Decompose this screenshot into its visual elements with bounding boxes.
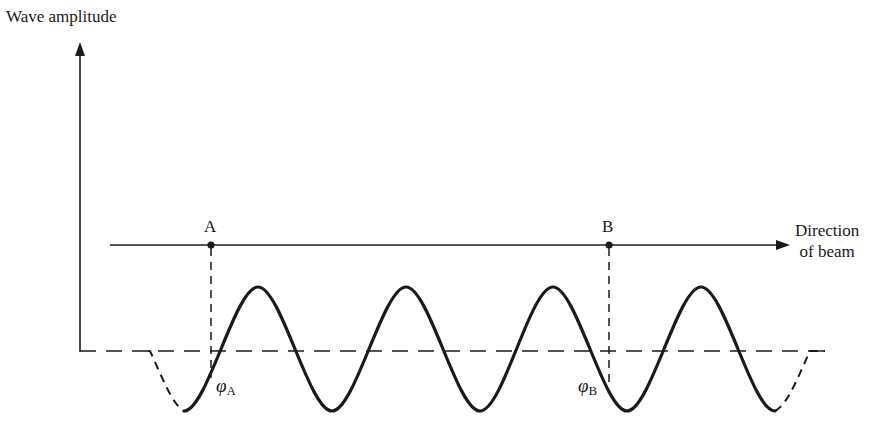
phi-subscript-b: B [589, 383, 598, 398]
phi-symbol-b: φ [578, 375, 589, 396]
point-b-label: B [602, 218, 613, 235]
phase-label-b: φB [578, 376, 597, 397]
phi-symbol-a: φ [216, 375, 227, 396]
wave-dashed-left [148, 351, 184, 411]
y-axis-label: Wave amplitude [6, 8, 117, 25]
point-b-marker [605, 241, 612, 385]
point-a-label: A [204, 218, 216, 235]
wave-diagram-canvas [0, 0, 883, 443]
y-axis [75, 42, 85, 352]
phi-subscript-a: A [227, 383, 236, 398]
wave-dashed-right [775, 351, 825, 411]
beam-direction-label-line2: of beam [795, 241, 859, 262]
point-a-marker [207, 241, 214, 378]
beam-arrow-icon [776, 240, 790, 250]
beam-direction-label-line1: Direction [795, 220, 859, 241]
y-axis-arrow-icon [75, 42, 85, 56]
phase-label-a: φA [216, 376, 236, 397]
beam-direction-label: Direction of beam [795, 220, 859, 262]
wave-solid [184, 287, 775, 411]
